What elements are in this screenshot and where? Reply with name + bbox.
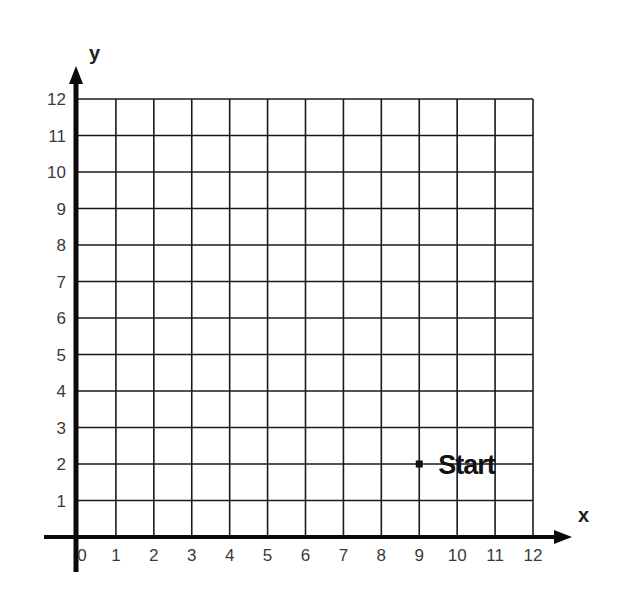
x-tick-label: 8 bbox=[377, 546, 386, 565]
x-tick-label: 0 bbox=[77, 546, 86, 565]
y-axis-arrow-icon bbox=[69, 66, 83, 84]
y-tick-label: 9 bbox=[57, 200, 66, 219]
y-tick-label: 11 bbox=[48, 127, 66, 146]
y-tick-label: 10 bbox=[47, 163, 66, 182]
x-tick-label: 12 bbox=[524, 546, 543, 565]
y-tick-label: 12 bbox=[47, 90, 66, 109]
start-point-label: Start bbox=[438, 450, 496, 480]
x-tick-label: 1 bbox=[111, 546, 120, 565]
x-tick-label: 5 bbox=[263, 546, 272, 565]
coordinate-grid: 0123456789101112 123456789101112 x y Sta… bbox=[0, 0, 620, 598]
axes bbox=[44, 66, 572, 572]
x-axis-arrow-icon bbox=[554, 530, 572, 544]
x-tick-label: 9 bbox=[415, 546, 424, 565]
y-tick-label: 4 bbox=[57, 382, 66, 401]
x-tick-label: 3 bbox=[187, 546, 196, 565]
y-tick-label: 3 bbox=[57, 419, 66, 438]
x-tick-label: 2 bbox=[149, 546, 158, 565]
y-tick-labels: 123456789101112 bbox=[47, 90, 66, 511]
x-tick-label: 6 bbox=[301, 546, 310, 565]
y-tick-label: 7 bbox=[57, 273, 66, 292]
y-tick-label: 1 bbox=[57, 492, 66, 511]
x-tick-label: 7 bbox=[339, 546, 348, 565]
y-tick-label: 6 bbox=[57, 309, 66, 328]
y-tick-label: 2 bbox=[57, 455, 66, 474]
y-tick-label: 5 bbox=[57, 346, 66, 365]
x-tick-labels: 0123456789101112 bbox=[77, 546, 542, 565]
x-tick-label: 4 bbox=[225, 546, 234, 565]
y-axis-label: y bbox=[89, 42, 101, 64]
data-points: Start bbox=[416, 450, 496, 480]
x-tick-label: 10 bbox=[448, 546, 467, 565]
y-tick-label: 8 bbox=[57, 236, 66, 255]
x-axis-label: x bbox=[578, 504, 589, 526]
start-point-marker bbox=[416, 461, 423, 468]
x-tick-label: 11 bbox=[486, 546, 504, 565]
